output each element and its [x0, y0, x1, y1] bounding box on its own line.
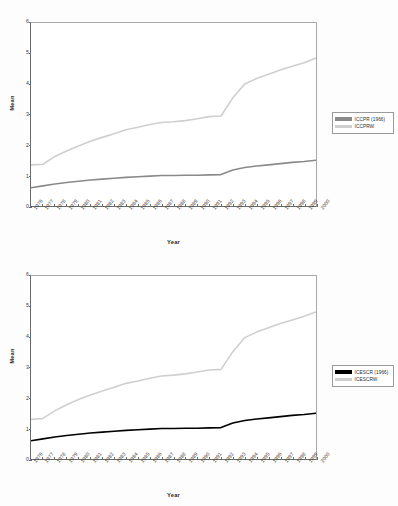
data-series-line	[31, 312, 316, 419]
legend-item: ICESCRW	[335, 376, 390, 383]
x-axis-tick-label: 2000	[319, 198, 331, 211]
series-group	[31, 58, 316, 188]
x-axis-ticks: 1976197719781979198019811982198319841985…	[30, 460, 317, 494]
legend-item: ICESCR (1966)	[335, 369, 390, 376]
plot-area	[30, 275, 317, 460]
y-axis-tick-label: 4	[0, 334, 29, 339]
y-axis-tick-label: 0	[0, 204, 29, 209]
legend-item: ICCPR (1966)	[335, 116, 390, 123]
data-series-line	[31, 160, 316, 187]
x-axis-title: Year	[30, 492, 317, 498]
plot-area	[30, 22, 317, 207]
y-axis-tick-label: 2	[0, 396, 29, 401]
legend-color-swatch	[335, 117, 352, 121]
data-series-line	[31, 413, 316, 440]
legend-color-swatch	[335, 370, 352, 374]
x-axis-tick-label: 2000	[319, 451, 331, 464]
plot-wrapper: Mean 0123456 197619771978197919801981198…	[0, 0, 398, 253]
y-axis-tick-label: 1	[0, 427, 29, 432]
y-axis-tick-label: 6	[0, 19, 29, 24]
y-axis-tick-label: 1	[0, 174, 29, 179]
plot-wrapper: Mean 0123456 197619771978197919801981198…	[0, 253, 398, 506]
y-axis-tick-label: 4	[0, 81, 29, 86]
y-axis-tick-label: 0	[0, 457, 29, 462]
legend-item-label: ICCPR (1966)	[355, 117, 386, 122]
document-page: Mean 0123456 197619771978197919801981198…	[0, 0, 398, 506]
legend-color-swatch	[335, 378, 352, 382]
x-axis-ticks: 1976197719781979198019811982198319841985…	[30, 207, 317, 241]
chart-figure-icescr: Mean 0123456 197619771978197919801981198…	[0, 253, 398, 506]
y-axis-tick-label: 2	[0, 143, 29, 148]
series-group	[31, 312, 316, 441]
x-axis-title: Year	[30, 239, 317, 245]
legend-item: ICCPRW	[335, 123, 390, 130]
legend-color-swatch	[335, 125, 352, 129]
chart-figure-iccpr: Mean 0123456 197619771978197919801981198…	[0, 0, 398, 253]
legend-item-label: ICESCRW	[355, 377, 378, 382]
legend-item-label: ICESCR (1966)	[355, 370, 389, 375]
y-axis-tick-label: 3	[0, 365, 29, 370]
data-series-line	[31, 58, 316, 165]
line-chart-svg	[31, 23, 316, 206]
chart-legend: ICCPR (1966)ICCPRW	[332, 112, 394, 134]
chart-legend: ICESCR (1966)ICESCRW	[332, 365, 394, 387]
y-axis-tick-label: 6	[0, 272, 29, 277]
legend-item-label: ICCPRW	[355, 124, 375, 129]
line-chart-svg	[31, 276, 316, 459]
y-axis-tick-label: 5	[0, 303, 29, 308]
y-axis-tick-label: 5	[0, 50, 29, 55]
y-axis-tick-label: 3	[0, 112, 29, 117]
